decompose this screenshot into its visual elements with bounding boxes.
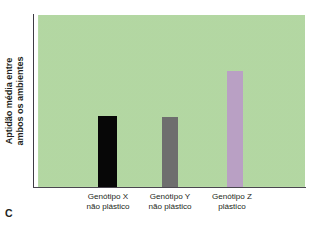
- y-axis-title-line-1: Aptidão média entre: [4, 56, 15, 145]
- y-axis-line: [33, 14, 34, 188]
- x-tick-label-genotipo-z: Genótipo Z plástico: [194, 192, 270, 213]
- bar-genotipo-x: [98, 116, 117, 187]
- bar-genotipo-y: [162, 117, 178, 187]
- bar-genotipo-z-fill: [227, 71, 243, 187]
- y-axis-title: Aptidão média entre ambos os ambientes: [0, 14, 30, 188]
- x-tick-label-genotipo-z-line-1: Genótipo Z: [194, 192, 270, 202]
- figure-panel-c: Aptidão média entre ambos os ambientes G…: [0, 0, 319, 230]
- bar-genotipo-z: [227, 71, 243, 187]
- panel-letter: C: [5, 208, 13, 219]
- y-axis-title-text: Aptidão média entre ambos os ambientes: [4, 56, 25, 145]
- y-axis-title-line-2: ambos os ambientes: [15, 56, 26, 145]
- x-tick-label-genotipo-z-line-2: plástico: [194, 202, 270, 212]
- plot-area: [38, 15, 305, 187]
- bar-genotipo-y-fill: [162, 117, 178, 187]
- bar-genotipo-x-fill: [98, 116, 117, 187]
- x-axis-tick-labels: Genótipo X não plástico Genótipo Y não p…: [38, 192, 305, 220]
